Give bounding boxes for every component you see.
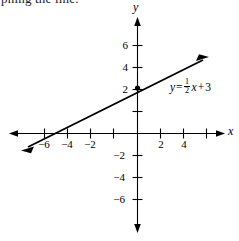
x-axis — [9, 130, 225, 137]
graph-figure: pning the line. — [0, 0, 239, 241]
y-axis — [134, 17, 141, 233]
y-axis-label: y — [133, 0, 138, 15]
equation-constant: 3 — [205, 81, 211, 93]
y-tick-label-neg4: −4 — [105, 171, 125, 183]
x-tick-label-4: 4 — [174, 138, 194, 150]
line-equation-label: y = 1 2 x + 3 — [170, 78, 211, 95]
x-tick-label-neg6: −6 — [34, 138, 54, 150]
y-tick-label-neg2: −2 — [105, 149, 125, 161]
y-intercept-dot — [135, 85, 140, 90]
equation-plus: + — [198, 81, 205, 93]
equation-variable: x — [192, 81, 197, 93]
equation-equals: = — [176, 81, 183, 93]
y-tick-label-6: 6 — [108, 39, 128, 51]
x-axis-label: x — [228, 124, 233, 139]
y-tick-label-4: 4 — [108, 61, 128, 73]
fraction-numerator: 1 — [184, 78, 190, 86]
x-tick-label-2: 2 — [151, 138, 171, 150]
y-tick-label-neg6: −6 — [105, 193, 125, 205]
equation-fraction: 1 2 — [184, 78, 190, 95]
equation-lhs: y — [170, 81, 175, 93]
y-tick-label-2: 2 — [108, 83, 128, 95]
fraction-denominator: 2 — [184, 86, 190, 95]
x-tick-label-neg2: −2 — [80, 138, 100, 150]
x-tick-label-neg4: −4 — [57, 138, 77, 150]
